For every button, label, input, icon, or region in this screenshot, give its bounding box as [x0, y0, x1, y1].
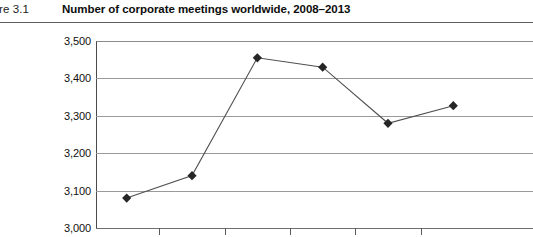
data-point-marker: [253, 53, 262, 62]
figure-header: gure 3.1 Number of corporate meetings wo…: [0, 0, 533, 24]
data-point-marker: [187, 171, 196, 180]
figure-number-label: gure 3.1: [0, 3, 29, 15]
data-point-marker: [449, 101, 458, 110]
series-markers: [122, 53, 458, 202]
data-point-marker: [122, 193, 131, 202]
series-layer: [0, 24, 533, 237]
line-chart: 3,5003,4003,3003,2003,1003,000: [0, 24, 533, 237]
header-divider: [0, 22, 533, 23]
series-line: [127, 58, 454, 198]
figure-title: Number of corporate meetings worldwide, …: [62, 3, 350, 15]
